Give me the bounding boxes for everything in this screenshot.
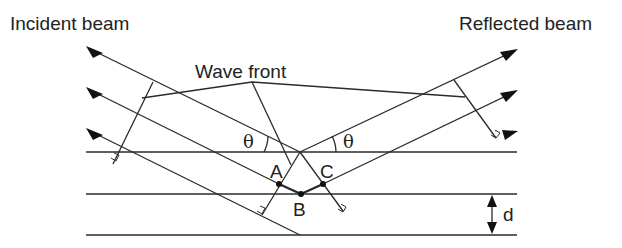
reflected-beam-label: Reflected beam xyxy=(459,14,592,33)
theta-arc-right xyxy=(332,136,336,152)
d-arrowhead-up xyxy=(487,195,497,207)
wavefront-perpendicular-right xyxy=(454,80,496,138)
theta-right-label: θ xyxy=(343,133,354,151)
wave-front-label: Wave front xyxy=(195,62,286,81)
bragg-diagram xyxy=(0,0,622,248)
reflected-arrowhead-3 xyxy=(502,130,518,140)
incident-arrowhead-3 xyxy=(86,128,103,140)
d-spacing-label: d xyxy=(503,205,514,224)
incident-arrowhead-2 xyxy=(86,87,103,99)
incident-arrowhead-1 xyxy=(86,46,103,58)
point-b-dot xyxy=(298,191,304,197)
theta-left-label: θ xyxy=(243,133,254,151)
point-c-label: C xyxy=(320,162,334,181)
reflected-arrowhead-1 xyxy=(500,49,518,61)
point-a-label: A xyxy=(270,162,283,181)
theta-arc-left xyxy=(264,136,268,152)
wave-front-line xyxy=(142,82,465,98)
incident-beam-label: Incident beam xyxy=(10,14,129,33)
reflected-arrowhead-2 xyxy=(500,90,518,102)
d-arrowhead-down xyxy=(487,222,497,234)
point-b-label: B xyxy=(293,200,306,219)
